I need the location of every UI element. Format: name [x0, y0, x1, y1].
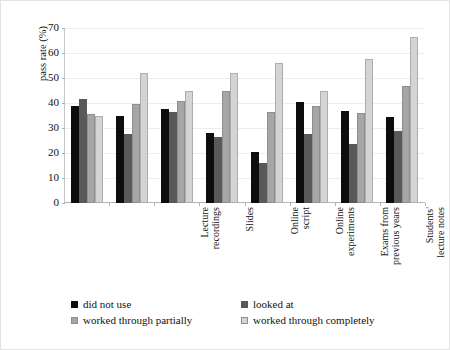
bar: [124, 134, 132, 203]
bar: [357, 113, 365, 203]
bar: [320, 91, 328, 204]
x-tick-mark: [109, 203, 110, 206]
x-tick-mark: [290, 203, 291, 206]
y-tick-label: 50: [33, 72, 59, 83]
legend-item[interactable]: worked through partially: [71, 314, 241, 326]
bar: [312, 106, 320, 204]
x-tick-mark: [199, 203, 200, 206]
legend-label: worked through completely: [253, 314, 375, 326]
x-tick-label: Exams from previous years: [379, 207, 401, 297]
bar: [259, 163, 267, 203]
bar: [402, 86, 410, 204]
bar: [267, 112, 275, 203]
y-tick-mark: [62, 28, 65, 29]
y-tick-label: 30: [33, 122, 59, 133]
y-tick-label: 0: [33, 197, 59, 208]
bar: [87, 114, 95, 203]
y-tick-label: 20: [33, 147, 59, 158]
bar: [132, 104, 140, 203]
legend-label: worked through partially: [83, 314, 192, 326]
x-tick-label: Slides: [244, 207, 255, 297]
legend-swatch-icon: [241, 301, 248, 308]
bar: [410, 37, 418, 203]
bar: [116, 116, 124, 204]
x-tick-mark: [335, 203, 336, 206]
legend-label: did not use: [83, 298, 131, 310]
gridline: [65, 28, 425, 29]
bar: [394, 131, 402, 204]
bar: [386, 117, 394, 203]
bar: [79, 99, 87, 203]
y-tick-mark: [62, 128, 65, 129]
y-tick-mark: [62, 78, 65, 79]
legend-swatch-icon: [241, 317, 248, 324]
x-tick-mark: [380, 203, 381, 206]
y-tick-mark: [62, 178, 65, 179]
x-tick-label: Online script: [289, 207, 311, 297]
x-tick-mark: [245, 203, 246, 206]
chart-legend: did not uselooked atworked through parti…: [71, 298, 411, 330]
y-tick-label: 60: [33, 47, 59, 58]
legend-swatch-icon: [71, 317, 78, 324]
legend-swatch-icon: [71, 301, 78, 308]
bar: [296, 102, 304, 203]
bar: [95, 116, 103, 204]
y-tick-mark: [62, 53, 65, 54]
bar: [214, 137, 222, 203]
y-tick-mark: [62, 153, 65, 154]
bar: [185, 91, 193, 204]
bar: [304, 134, 312, 203]
y-tick-label: 10: [33, 172, 59, 183]
chart-figure: pass rate (%) 010203040506070 Lecture re…: [0, 0, 450, 350]
bar: [251, 152, 259, 203]
y-tick-label: 40: [33, 97, 59, 108]
bar: [206, 133, 214, 203]
legend-item[interactable]: worked through completely: [241, 314, 411, 326]
bar: [169, 112, 177, 203]
y-tick-label: 70: [33, 22, 59, 33]
legend-item[interactable]: looked at: [241, 298, 411, 310]
bar: [222, 91, 230, 204]
x-tick-mark: [425, 203, 426, 206]
bar: [365, 59, 373, 203]
x-tick-label: Lecture recordings: [199, 207, 221, 297]
x-tick-mark: [154, 203, 155, 206]
gridline: [65, 53, 425, 54]
y-tick-mark: [62, 103, 65, 104]
bar: [349, 144, 357, 203]
y-tick-mark: [62, 203, 65, 204]
x-tick-label: Online experiments: [334, 207, 356, 297]
legend-item[interactable]: did not use: [71, 298, 241, 310]
legend-label: looked at: [253, 298, 294, 310]
bar: [161, 109, 169, 203]
bar: [140, 73, 148, 203]
bar: [275, 63, 283, 203]
bar: [341, 111, 349, 204]
x-tick-label: Students' lecture notes: [424, 207, 446, 297]
bar: [230, 73, 238, 203]
bar: [177, 101, 185, 204]
bar: [71, 106, 79, 204]
